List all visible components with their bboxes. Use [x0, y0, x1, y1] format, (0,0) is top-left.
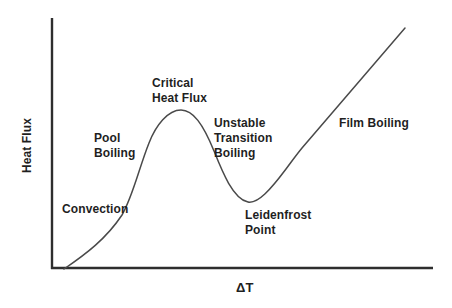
- y-axis-label: Heat Flux: [20, 116, 35, 176]
- boiling-curve-figure: Heat Flux Convection Pool Boiling Critic…: [0, 0, 452, 308]
- annotation-leidenfrost-point: Leidenfrost Point: [245, 208, 311, 238]
- x-axis-label: ΔT: [236, 280, 254, 295]
- annotation-pool-boiling: Pool Boiling: [94, 131, 135, 161]
- annotation-critical-heat-flux: Critical Heat Flux: [152, 76, 207, 106]
- annotation-film-boiling: Film Boiling: [339, 116, 409, 131]
- annotation-convection: Convection: [62, 202, 128, 217]
- annotation-unstable-transition-boiling: Unstable Transition Boiling: [214, 116, 272, 161]
